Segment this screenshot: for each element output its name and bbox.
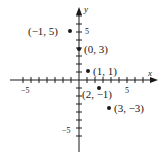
point-label-1-1: (1, 1) [93,65,117,78]
point-label-neg1-5: (−1, 5) [28,25,58,38]
point-0-3 [77,47,81,51]
point-1-1 [86,69,90,73]
coordinate-plane: y x −5 5 5 −5 (−1, 5) (0, 3) (1, 1) (2, … [0,0,166,156]
x-axis-label: x [147,68,152,78]
y-tick-label-5: 5 [85,27,89,36]
x-tick-label-5: 5 [125,86,129,95]
point-3-neg3 [107,106,111,110]
y-tick-label-neg5: −5 [62,126,71,135]
y-axis-label: y [83,4,88,14]
point-label-2-neg1: (2, −1) [82,88,112,101]
point-neg1-5 [68,29,72,33]
y-axis-arrow-icon [76,7,82,15]
point-label-3-neg3: (3, −3) [114,102,144,115]
point-label-0-3: (0, 3) [84,43,108,56]
x-tick-label-neg5: −5 [21,86,30,95]
